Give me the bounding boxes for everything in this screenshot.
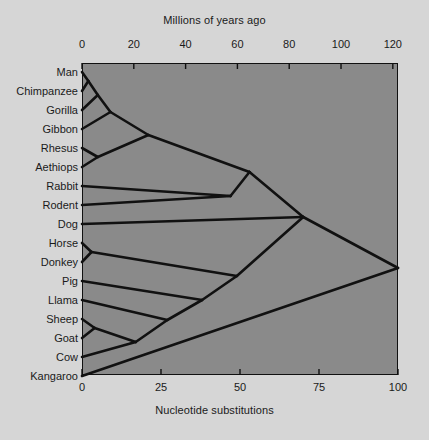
tree-branch	[91, 252, 236, 276]
tree-branch	[82, 243, 91, 252]
tree-branch	[82, 217, 303, 224]
tree-branch	[98, 135, 149, 157]
tree-branch	[231, 172, 250, 196]
tree-branch	[82, 342, 136, 357]
tree-branches	[82, 72, 398, 376]
tree-branch	[82, 319, 95, 328]
tree-branch	[82, 328, 95, 338]
tree-branch	[82, 196, 231, 205]
tree-branch	[303, 217, 398, 268]
tree-branch	[110, 112, 148, 135]
tree-branch	[82, 72, 88, 81]
tree-branch	[82, 300, 167, 320]
tree-branch	[82, 95, 98, 110]
tree-branch	[167, 300, 202, 320]
tree-branch	[82, 148, 98, 157]
tree-branch	[202, 276, 237, 300]
tree-branch	[82, 157, 98, 167]
tree-branch	[82, 281, 202, 300]
tree-branch	[249, 172, 303, 217]
tree-branch	[82, 186, 231, 196]
tree-branch	[98, 95, 111, 112]
tree-branch	[148, 135, 249, 172]
tree-branch	[82, 268, 398, 376]
tree-branch	[136, 320, 168, 342]
tree-branch	[95, 328, 136, 342]
tree-branch	[82, 252, 91, 262]
phylogenetic-tree-canvas	[0, 0, 429, 440]
tree-branch	[82, 112, 110, 129]
tree-branch	[88, 81, 97, 95]
tree-branch	[237, 217, 303, 276]
tree-branch	[82, 81, 88, 91]
